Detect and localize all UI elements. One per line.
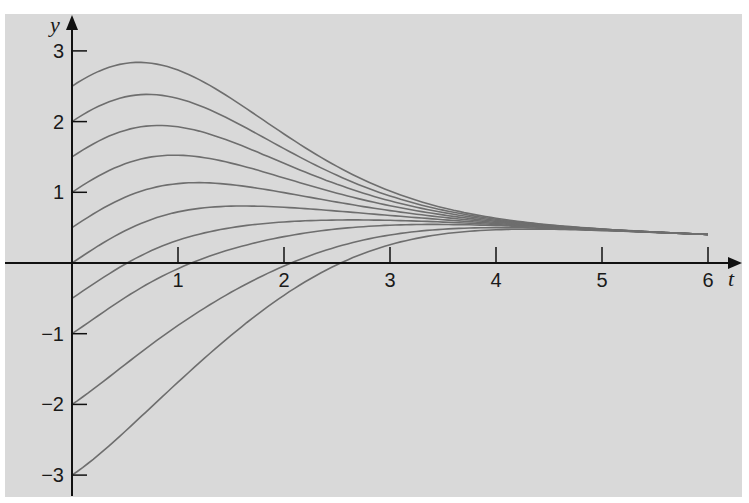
y-tick-label: 2 <box>53 111 64 133</box>
y-tick-label: 1 <box>53 181 64 203</box>
x-tick-label: 1 <box>172 269 183 291</box>
y-tick-label: −2 <box>41 393 64 415</box>
plot-background <box>5 14 742 497</box>
chart: 123456 −3−2−1123 t y <box>0 0 749 503</box>
x-axis-label: t <box>728 266 735 291</box>
x-tick-label: 5 <box>596 269 607 291</box>
x-tick-label: 4 <box>490 269 501 291</box>
x-tick-label: 6 <box>702 269 713 291</box>
x-tick-label: 3 <box>384 269 395 291</box>
y-tick-label: 3 <box>53 40 64 62</box>
y-tick-label: −3 <box>41 464 64 486</box>
y-axis-label: y <box>48 12 60 37</box>
x-tick-label: 2 <box>278 269 289 291</box>
y-tick-label: −1 <box>41 323 64 345</box>
